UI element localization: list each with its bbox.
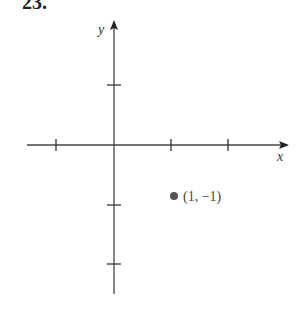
point-label: (1, −1) [183,189,222,205]
data-point [170,192,178,200]
coordinate-plane: y x (1, −1) [0,0,306,318]
x-axis-label: x [276,149,284,164]
y-axis-label: y [96,22,105,37]
